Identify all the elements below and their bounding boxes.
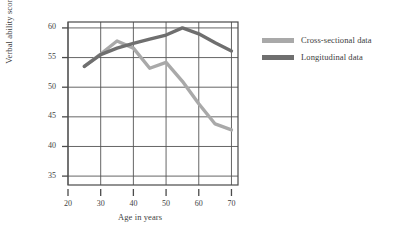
legend-item-cross-sectional: Cross-sectional data: [262, 33, 372, 47]
x-tick-label: 20: [56, 199, 80, 208]
x-tick-label: 60: [187, 199, 211, 208]
x-tick-label: 40: [121, 199, 145, 208]
y-axis-title: Verbal ability scores: [4, 0, 14, 78]
y-tick-label: 35: [34, 171, 56, 180]
series-line-longitudinal-data: [84, 28, 231, 67]
legend-swatch-longitudinal: [262, 55, 294, 60]
y-tick-label: 60: [34, 22, 56, 31]
y-tick-label: 50: [34, 82, 56, 91]
x-axis-title: Age in years: [118, 212, 162, 222]
plot-frame: [68, 22, 238, 185]
x-tick-label: 70: [219, 199, 243, 208]
chart-legend: Cross-sectional data Longitudinal data: [262, 33, 372, 67]
chart-figure: Verbal ability scores Age in years Cross…: [0, 0, 398, 243]
x-tick-label: 50: [154, 199, 178, 208]
y-tick-label: 55: [34, 52, 56, 61]
legend-label-longitudinal: Longitudinal data: [301, 52, 363, 62]
y-tick-label: 40: [34, 141, 56, 150]
legend-label-cross-sectional: Cross-sectional data: [301, 35, 372, 45]
x-tick-label: 30: [89, 199, 113, 208]
legend-item-longitudinal: Longitudinal data: [262, 50, 372, 64]
y-tick-label: 45: [34, 111, 56, 120]
legend-swatch-cross-sectional: [262, 38, 294, 43]
